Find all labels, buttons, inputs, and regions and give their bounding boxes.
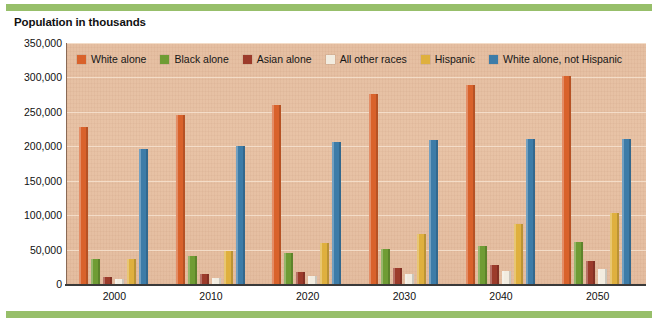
bar[interactable] [490, 265, 499, 284]
gridline [67, 250, 646, 251]
bar-face [514, 224, 523, 284]
bar[interactable] [586, 261, 595, 284]
bar-highlight [466, 85, 468, 284]
legend-item[interactable]: Asian alone [243, 53, 312, 65]
legend-item-label: Black alone [174, 53, 228, 65]
bar[interactable] [200, 274, 209, 284]
y-axis-tick-label: 200,000 [0, 140, 62, 152]
bar[interactable] [320, 243, 329, 284]
bar[interactable] [526, 139, 535, 284]
legend-swatch-icon [243, 55, 252, 64]
bar[interactable] [236, 146, 245, 284]
bar[interactable] [224, 251, 233, 284]
bar-face [574, 242, 583, 284]
bar-shadow [315, 276, 317, 284]
bar-highlight [586, 261, 588, 284]
bar[interactable] [176, 115, 185, 284]
bar-face [139, 149, 148, 284]
bar-shadow [231, 251, 233, 284]
bar-highlight [272, 105, 274, 284]
bar-shadow [207, 274, 209, 284]
bar-face [103, 277, 112, 284]
bar-face [224, 251, 233, 284]
legend-item[interactable]: Hispanic [421, 53, 475, 65]
bar[interactable] [79, 127, 88, 284]
bar-highlight [598, 269, 600, 284]
bar-shadow [400, 268, 402, 284]
bar-face [417, 234, 426, 284]
bar-shadow [424, 234, 426, 284]
bar-shadow [339, 142, 341, 284]
legend-item[interactable]: Black alone [160, 53, 228, 65]
legend-item[interactable]: All other races [326, 53, 407, 65]
bar[interactable] [332, 142, 341, 284]
bar-highlight [332, 142, 334, 284]
bar[interactable] [188, 256, 197, 284]
bar-face [478, 246, 487, 284]
legend-item-label: Hispanic [435, 53, 475, 65]
bottom-accent-rule [6, 311, 652, 318]
bar-group [369, 43, 441, 284]
bar[interactable] [514, 224, 523, 284]
bar-highlight [429, 140, 431, 284]
bar-highlight [139, 149, 141, 284]
bar[interactable] [405, 274, 414, 284]
bar[interactable] [393, 268, 402, 284]
bar-face [429, 140, 438, 284]
page-title: Population in thousands [14, 16, 146, 28]
legend-swatch-icon [489, 55, 498, 64]
legend-item-label: White alone [91, 53, 146, 65]
bar-shadow [195, 256, 197, 284]
bar[interactable] [91, 259, 100, 284]
bar[interactable] [610, 213, 619, 284]
bar-shadow [509, 271, 511, 284]
bar-face [622, 139, 631, 284]
legend-item[interactable]: White alone [77, 53, 146, 65]
bar-highlight [405, 274, 407, 284]
y-axis-tick-label: 300,000 [0, 71, 62, 83]
plot-area: White aloneBlack aloneAsian aloneAll oth… [66, 43, 646, 284]
x-axis-tick-label: 2050 [558, 290, 638, 302]
bar-face [284, 253, 293, 284]
x-axis-tick-label: 2020 [268, 290, 348, 302]
y-axis-tick-label: 100,000 [0, 209, 62, 221]
bar-highlight [127, 259, 129, 284]
bar-face [369, 94, 378, 284]
bar[interactable] [478, 246, 487, 284]
bar[interactable] [466, 85, 475, 284]
bar-face [176, 115, 185, 284]
bar[interactable] [103, 277, 112, 284]
gridline [67, 112, 646, 113]
gridline [67, 77, 646, 78]
bar[interactable] [622, 139, 631, 284]
bar-group [79, 43, 151, 284]
bar[interactable] [562, 76, 571, 284]
gridline [67, 146, 646, 147]
chart-legend: White aloneBlack aloneAsian aloneAll oth… [77, 53, 622, 65]
bar[interactable] [369, 94, 378, 284]
bar-group [562, 43, 634, 284]
legend-item[interactable]: White alone, not Hispanic [489, 53, 622, 65]
bar[interactable] [381, 249, 390, 284]
bar[interactable] [417, 234, 426, 284]
bar-face [502, 271, 511, 284]
bar-face [405, 274, 414, 284]
bar[interactable] [127, 259, 136, 284]
bar[interactable] [284, 253, 293, 284]
bar-highlight [224, 251, 226, 284]
bar-face [562, 76, 571, 284]
bar[interactable] [574, 242, 583, 284]
bar[interactable] [598, 269, 607, 284]
plot-wrapper: White aloneBlack aloneAsian aloneAll oth… [66, 43, 646, 284]
bar-face [526, 139, 535, 284]
bar[interactable] [308, 276, 317, 284]
bar-highlight [103, 277, 105, 284]
bar[interactable] [502, 271, 511, 284]
legend-swatch-icon [326, 55, 335, 64]
bar[interactable] [429, 140, 438, 284]
bar[interactable] [272, 105, 281, 284]
bar[interactable] [296, 272, 305, 284]
legend-swatch-icon [421, 55, 430, 64]
bar-shadow [243, 146, 245, 284]
bar[interactable] [139, 149, 148, 284]
